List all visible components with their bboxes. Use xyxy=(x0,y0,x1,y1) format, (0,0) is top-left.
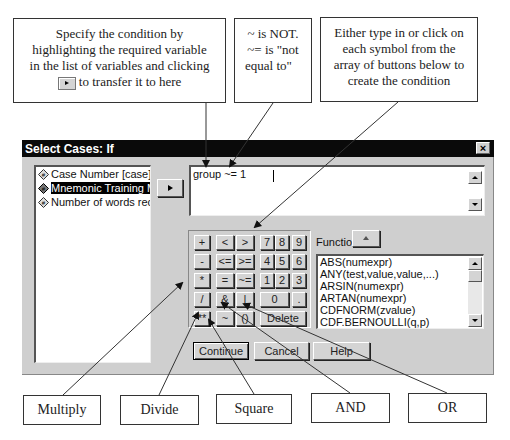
insert-function-button[interactable] xyxy=(352,230,380,247)
variable-label: Mnemonic Training Me xyxy=(51,182,151,194)
key-7[interactable]: 7 xyxy=(260,235,274,250)
expression-text[interactable]: group ~= 1 xyxy=(193,168,246,180)
callout-text: array of buttons below to xyxy=(325,57,473,73)
callout-specify-condition: Specify the condition by highlighting th… xyxy=(13,18,226,103)
key-4[interactable]: 4 xyxy=(260,254,274,269)
key-5[interactable]: 5 xyxy=(275,254,289,269)
numeric-variable-icon: # xyxy=(38,197,49,208)
variable-item-case-number[interactable]: # Case Number [case] xyxy=(36,167,150,181)
key-power[interactable]: ** xyxy=(194,311,210,326)
key-8[interactable]: 8 xyxy=(275,235,289,250)
select-cases-if-dialog: Select Cases: If × # Case Number [case] … xyxy=(22,140,494,375)
operator-keypad: + < > 7 8 9 - <= >= 4 5 6 * = ~= 1 2 3 /… xyxy=(188,230,311,328)
function-item[interactable]: ARTAN(numexpr) xyxy=(318,292,483,304)
scroll-down-button[interactable] xyxy=(468,314,482,327)
callout-text: ~ is NOT. xyxy=(239,26,307,42)
key-less-equal[interactable]: <= xyxy=(216,254,234,269)
callout-square: Square xyxy=(216,394,292,424)
dialog-title: Select Cases: If xyxy=(25,142,114,156)
help-button[interactable]: Help xyxy=(313,342,370,360)
variable-item-mnemonic-training[interactable]: # Mnemonic Training Me xyxy=(36,181,150,195)
callout-text: Either type in or click on xyxy=(325,25,473,41)
transfer-arrow-icon xyxy=(58,77,76,90)
scroll-up-button[interactable] xyxy=(468,171,482,184)
close-button[interactable]: × xyxy=(476,142,490,154)
key-9[interactable]: 9 xyxy=(292,235,306,250)
functions-scrollbar[interactable] xyxy=(468,257,482,327)
key-0[interactable]: 0 xyxy=(260,292,289,307)
transfer-variable-button[interactable] xyxy=(157,179,183,197)
expression-input[interactable]: group ~= 1 xyxy=(189,165,485,216)
text-caret xyxy=(273,170,274,182)
numeric-variable-icon: # xyxy=(38,169,49,180)
key-decimal[interactable]: . xyxy=(292,292,306,307)
function-item[interactable]: CDF.BERNOULLI(q,p) xyxy=(318,316,483,328)
callout-multiply: Multiply xyxy=(23,395,101,425)
key-parentheses[interactable]: () xyxy=(236,311,254,326)
callout-text: ~= is "not xyxy=(239,42,307,58)
key-equals[interactable]: = xyxy=(216,273,234,288)
key-not[interactable]: ~ xyxy=(216,311,234,326)
cancel-button[interactable]: Cancel xyxy=(254,342,309,360)
scroll-thumb[interactable] xyxy=(468,270,482,282)
scroll-down-button[interactable] xyxy=(468,198,482,211)
key-divide[interactable]: / xyxy=(194,292,210,307)
callout-text: create the condition xyxy=(325,73,473,89)
callout-text: equal to" xyxy=(239,58,307,74)
key-minus[interactable]: - xyxy=(194,254,210,269)
title-bar[interactable]: Select Cases: If × xyxy=(22,140,494,157)
variable-label: Case Number [case] xyxy=(51,168,151,180)
function-item[interactable]: CDFNORM(zvalue) xyxy=(318,304,483,316)
key-greater-than[interactable]: > xyxy=(236,235,254,250)
callout-text: highlighting the required variable xyxy=(18,42,221,58)
callout-text: in the list of variables and clicking xyxy=(18,58,221,74)
callout-buttons-hint: Either type in or click on each symbol f… xyxy=(320,17,478,102)
key-delete[interactable]: Delete xyxy=(260,311,306,326)
scroll-up-button[interactable] xyxy=(468,257,482,270)
variable-label: Number of words recal xyxy=(51,196,151,208)
function-item[interactable]: ANY(test,value,value,...) xyxy=(318,268,483,280)
key-multiply[interactable]: * xyxy=(194,273,210,288)
callout-or: OR xyxy=(408,393,487,423)
key-not-equal[interactable]: ~= xyxy=(236,273,254,288)
key-2[interactable]: 2 xyxy=(275,273,289,288)
callout-text: to transfer it to here xyxy=(18,74,221,90)
callout-not-equal: ~ is NOT. ~= is "not equal to" xyxy=(234,18,312,103)
key-and[interactable]: & xyxy=(216,292,234,307)
callout-and: AND xyxy=(311,393,390,423)
variable-item-number-of-words[interactable]: # Number of words recal xyxy=(36,195,150,209)
callout-text: each symbol from the xyxy=(325,41,473,57)
key-6[interactable]: 6 xyxy=(292,254,306,269)
key-greater-equal[interactable]: >= xyxy=(236,254,254,269)
key-or[interactable]: | xyxy=(236,292,254,307)
key-plus[interactable]: + xyxy=(194,235,210,250)
callout-divide: Divide xyxy=(120,395,199,425)
callout-text: Specify the condition by xyxy=(18,26,221,42)
expression-scrollbar[interactable] xyxy=(468,169,482,213)
function-item[interactable]: ABS(numexpr) xyxy=(318,256,483,268)
key-less-than[interactable]: < xyxy=(216,235,234,250)
key-3[interactable]: 3 xyxy=(292,273,306,288)
variable-list[interactable]: # Case Number [case] # Mnemonic Training… xyxy=(34,165,151,363)
key-1[interactable]: 1 xyxy=(260,273,274,288)
numeric-variable-icon: # xyxy=(38,183,49,194)
callout-text: to transfer it to here xyxy=(79,74,182,89)
function-item[interactable]: ARSIN(numexpr) xyxy=(318,280,483,292)
continue-button[interactable]: Continue xyxy=(193,342,249,360)
functions-list[interactable]: ABS(numexpr) ANY(test,value,value,...) A… xyxy=(316,254,484,329)
